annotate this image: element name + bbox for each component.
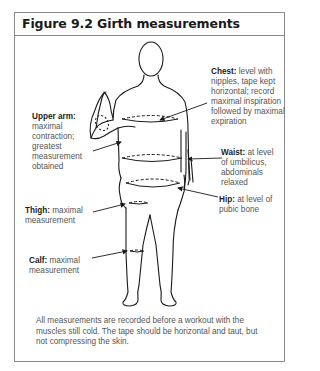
waist-label: Waist: at level of umbilicus, abdominals… — [221, 148, 279, 188]
head-outline — [139, 42, 163, 76]
chest-term: Chest: — [211, 67, 236, 76]
calf-label: Calf: maximal measurement — [29, 256, 89, 276]
upper-arm-term: Upper arm: — [32, 112, 76, 121]
thigh-term: Thigh: — [25, 206, 50, 215]
figure-caption: All measurements are recorded before a w… — [36, 316, 266, 348]
upper-arm-label: Upper arm: maximal contraction; greatest… — [32, 112, 82, 172]
upper-arm-desc: maximal contraction; greatest measuremen… — [32, 122, 82, 171]
upper-arm-pointer — [93, 142, 121, 151]
chest-label: Chest: level with nipples, tape kept hor… — [211, 67, 286, 127]
calf-pointer — [92, 251, 127, 258]
calf-term: Calf: — [29, 256, 47, 265]
thigh-pointer — [93, 204, 125, 212]
waist-pointer — [188, 158, 222, 159]
waist-term: Waist: — [221, 148, 245, 157]
thigh-label: Thigh: maximal measurement — [25, 206, 85, 226]
hip-term: Hip: — [219, 195, 235, 204]
hip-label: Hip: at level of pubic bone — [219, 195, 281, 215]
chest-pointer — [160, 103, 207, 120]
